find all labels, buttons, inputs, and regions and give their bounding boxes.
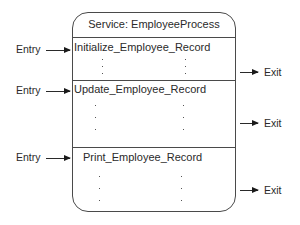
ellipsis-dot [181, 200, 182, 201]
exit-arrow-icon [240, 72, 258, 73]
entry-label-2: Entry [16, 84, 41, 96]
entry-label-1: Entry [16, 43, 41, 55]
section-divider-2 [72, 147, 236, 148]
exit-label-2: Exit [264, 117, 282, 129]
ellipsis-dot [99, 176, 100, 177]
ellipsis-dot [185, 73, 186, 74]
ellipsis-dot [99, 188, 100, 189]
ellipsis-dot [95, 129, 96, 130]
ellipsis-dot [185, 66, 186, 67]
exit-arrow-icon [240, 190, 258, 191]
operation-print-employee-record: Print_Employee_Record [83, 151, 202, 163]
header-divider [72, 37, 236, 38]
service-title: Service: EmployeeProcess [73, 18, 235, 30]
ellipsis-dot [102, 59, 103, 60]
exit-label-3: Exit [264, 184, 282, 196]
ellipsis-dot [183, 117, 184, 118]
entry-arrow-icon [46, 50, 70, 51]
ellipsis-dot [183, 105, 184, 106]
operation-initialize-employee-record: Initialize_Employee_Record [74, 41, 210, 53]
exit-arrow-icon [240, 123, 258, 124]
section-divider-1 [72, 80, 236, 81]
operation-update-employee-record: Update_Employee_Record [74, 83, 206, 95]
ellipsis-dot [95, 117, 96, 118]
entry-arrow-icon [46, 91, 70, 92]
ellipsis-dot [181, 176, 182, 177]
exit-label-1: Exit [264, 66, 282, 78]
ellipsis-dot [102, 66, 103, 67]
ellipsis-dot [102, 73, 103, 74]
ellipsis-dot [185, 59, 186, 60]
entry-arrow-icon [46, 158, 70, 159]
ellipsis-dot [183, 129, 184, 130]
ellipsis-dot [99, 200, 100, 201]
entry-label-3: Entry [16, 151, 41, 163]
ellipsis-dot [181, 188, 182, 189]
ellipsis-dot [95, 105, 96, 106]
